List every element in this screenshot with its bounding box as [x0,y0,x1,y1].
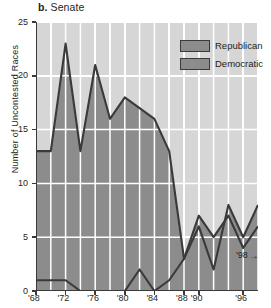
x-tick-mark [242,291,244,295]
y-tick-mark [32,129,36,131]
arrow-right-icon: → [249,251,259,260]
x-tick-label: '84 [146,294,158,303]
x-tick-mark [154,291,156,295]
x-tick-label: '90 [191,294,203,303]
x-tick-label: '72 [58,294,70,303]
legend-item-democratic[interactable]: Democratic [180,56,263,71]
legend-swatch-democratic [180,58,210,70]
legend-swatch-republican [180,40,210,52]
y-tick-label: 5 [4,233,28,242]
x-tick-label: '80 [117,294,129,303]
y-tick-mark [32,236,36,238]
y-tick-mark [32,21,36,23]
x-tick-mark [65,291,67,295]
x-tick-mark [183,291,185,295]
x-tick-mark [35,291,37,295]
x-tick-label: '96 [235,294,247,303]
x-tick-mark [94,291,96,295]
title-letter: b. [38,1,48,13]
x-tick-mark [124,291,126,295]
x-tick-mark [198,291,200,295]
y-tick-mark [32,75,36,77]
title-text: Senate [51,1,85,13]
y-tick-label: 25 [4,18,28,27]
y-tick-mark [32,183,36,185]
y-tick-label: 15 [4,125,28,134]
annotation-1998: '98 → [236,250,259,260]
x-tick-label: '88 [176,294,188,303]
y-tick-label: 20 [4,71,28,80]
legend-label-democratic: Democratic [215,59,263,69]
y-axis-label: Number of Uncontested Races [10,34,20,184]
legend: Republican Democratic [180,38,263,74]
x-tick-label: '68 [28,294,40,303]
legend-label-republican: Republican [215,41,263,51]
chart-container: b. Senate Number of Uncontested Races 05… [0,0,271,308]
annotation-label: '98 [236,250,248,260]
y-tick-label: 10 [4,179,28,188]
page-title: b. Senate [38,1,84,13]
y-tick-label: 0 [4,287,28,296]
legend-item-republican[interactable]: Republican [180,38,263,53]
x-tick-label: '76 [87,294,99,303]
